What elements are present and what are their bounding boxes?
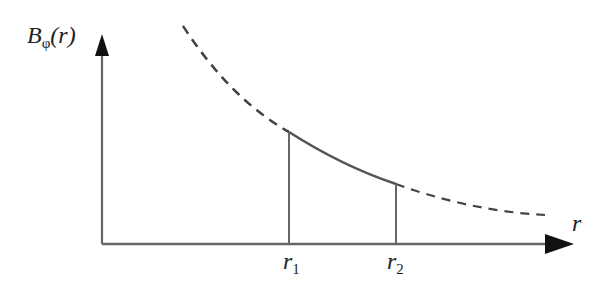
diagram-canvas: Bφ(r) r r1 r2 [0,0,615,281]
r1-sub: 1 [292,261,300,277]
r2-main: r [387,248,396,274]
r1-main: r [283,248,292,274]
y-axis-label: Bφ(r) [27,22,76,49]
y-label-main: B [27,22,42,48]
diagram-svg [0,0,615,281]
dashed-curve-left [183,26,289,132]
solid-curve-segment [289,132,396,184]
r2-label: r2 [387,248,404,275]
x-axis-arrow-icon [545,234,574,254]
x-axis-label: r [572,210,581,237]
dashed-curve [183,26,545,215]
r1-label: r1 [283,248,300,275]
r2-sub: 2 [396,261,404,277]
y-label-arg: (r) [50,22,75,48]
y-axis-arrow-icon [95,34,109,56]
y-label-sub: φ [42,35,51,51]
